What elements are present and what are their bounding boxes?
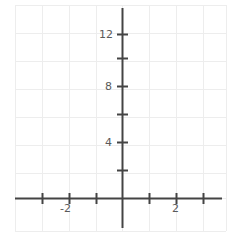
y-tick-label-8: 8 xyxy=(105,81,112,92)
chart-canvas: -2 2 4 8 12 xyxy=(0,0,238,238)
x-tick-label--2: -2 xyxy=(60,203,71,214)
coordinate-plane-plot xyxy=(0,0,238,238)
y-tick-label-4: 4 xyxy=(105,137,112,148)
y-tick-label-12: 12 xyxy=(99,29,113,40)
x-tick-label-2: 2 xyxy=(172,203,179,214)
